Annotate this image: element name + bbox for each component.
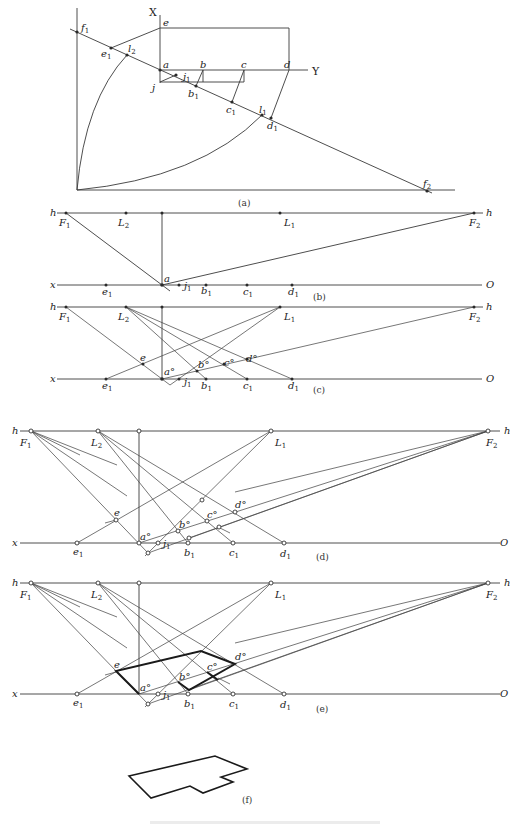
svg-text:x: x bbox=[12, 537, 18, 548]
panel-a: X Y f1 e e1 l2 a b c d j j1 b1 c1 l1 d1 … bbox=[70, 6, 455, 208]
svg-text:h: h bbox=[504, 577, 510, 588]
svg-text:F2: F2 bbox=[485, 589, 497, 602]
svg-text:e1: e1 bbox=[102, 380, 112, 393]
svg-text:h: h bbox=[12, 577, 18, 588]
svg-text:O: O bbox=[486, 279, 494, 290]
svg-text:F1: F1 bbox=[58, 217, 70, 230]
caption-c: (c) bbox=[313, 385, 325, 395]
svg-text:h: h bbox=[50, 207, 56, 218]
label-b: b bbox=[200, 59, 206, 70]
svg-text:e: e bbox=[114, 659, 120, 670]
svg-text:O: O bbox=[500, 537, 508, 548]
label-a: a bbox=[163, 59, 169, 70]
svg-text:a°: a° bbox=[140, 682, 151, 693]
svg-text:F1: F1 bbox=[58, 311, 70, 324]
panel-f: (f) bbox=[129, 756, 252, 805]
svg-text:O: O bbox=[486, 373, 494, 384]
svg-text:h: h bbox=[12, 425, 18, 436]
svg-text:b1: b1 bbox=[188, 88, 199, 101]
svg-text:F2: F2 bbox=[468, 311, 480, 324]
svg-text:j1: j1 bbox=[161, 689, 171, 702]
c-to-c1 bbox=[232, 70, 244, 102]
caption-f: (f) bbox=[242, 795, 252, 805]
svg-text:F1: F1 bbox=[19, 437, 31, 450]
svg-text:j1: j1 bbox=[161, 538, 171, 551]
svg-text:c1: c1 bbox=[243, 286, 253, 299]
svg-text:L2: L2 bbox=[90, 437, 102, 450]
b-to-b1 bbox=[196, 70, 203, 86]
svg-text:L1: L1 bbox=[283, 311, 295, 324]
svg-text:b°: b° bbox=[198, 359, 209, 370]
svg-text:b1: b1 bbox=[201, 380, 212, 393]
svg-text:a°: a° bbox=[140, 531, 151, 542]
axis-y-label: Y bbox=[311, 65, 320, 78]
svg-text:c1: c1 bbox=[243, 380, 253, 393]
svg-text:b1: b1 bbox=[184, 547, 195, 560]
arc-l1 bbox=[77, 115, 262, 190]
caption-d: (d) bbox=[316, 552, 329, 562]
final-perspective-shape bbox=[129, 756, 247, 798]
svg-text:a°: a° bbox=[164, 366, 175, 377]
svg-text:b°: b° bbox=[179, 671, 190, 682]
svg-text:l2: l2 bbox=[128, 43, 136, 56]
caption-b: (b) bbox=[313, 292, 326, 302]
svg-text:b1: b1 bbox=[201, 285, 212, 298]
svg-text:x: x bbox=[12, 688, 18, 699]
arc-l2 bbox=[77, 55, 127, 190]
svg-text:e1: e1 bbox=[101, 48, 111, 61]
panel-e: h h F1 L2 L1 F2 x O e a° b° c° d° e1 j1 … bbox=[12, 577, 510, 714]
svg-text:L1: L1 bbox=[274, 589, 286, 602]
svg-text:F2: F2 bbox=[485, 437, 497, 450]
svg-text:h: h bbox=[486, 207, 492, 218]
label-d: d bbox=[284, 59, 290, 70]
svg-text:e1: e1 bbox=[73, 546, 83, 559]
svg-text:a: a bbox=[164, 273, 170, 284]
svg-text:L1: L1 bbox=[283, 217, 295, 230]
svg-text:L2: L2 bbox=[117, 311, 129, 324]
svg-text:d1: d1 bbox=[288, 286, 299, 299]
svg-text:O: O bbox=[500, 688, 508, 699]
svg-text:L2: L2 bbox=[90, 589, 102, 602]
panel-b: h h F1 L2 L1 F2 x O a e1 j1 b1 c1 d1 (b) bbox=[50, 207, 494, 302]
svg-text:e1: e1 bbox=[73, 697, 83, 710]
caption-e: (e) bbox=[316, 704, 328, 714]
svg-text:e1: e1 bbox=[102, 286, 112, 299]
figure-caption-faint bbox=[150, 821, 380, 824]
svg-text:d1: d1 bbox=[280, 548, 291, 561]
d-to-d1 bbox=[271, 70, 289, 118]
panel-c: h h F1 L2 L1 F2 x O e a° b° c° d° e1 j1 … bbox=[50, 301, 494, 395]
svg-text:x: x bbox=[50, 373, 56, 384]
svg-text:c1: c1 bbox=[226, 104, 236, 117]
svg-text:j1: j1 bbox=[182, 280, 192, 293]
svg-text:d1: d1 bbox=[288, 380, 299, 393]
svg-text:c1: c1 bbox=[229, 547, 239, 560]
perspective-construction-diagram: X Y f1 e e1 l2 a b c d j j1 b1 c1 l1 d1 … bbox=[0, 0, 525, 827]
svg-text:d°: d° bbox=[235, 651, 246, 662]
svg-text:L2: L2 bbox=[117, 217, 129, 230]
svg-text:d1: d1 bbox=[280, 699, 291, 712]
label-c: c bbox=[241, 59, 247, 70]
caption-a: (a) bbox=[238, 198, 250, 208]
svg-text:F1: F1 bbox=[19, 589, 31, 602]
e-to-e1 bbox=[111, 28, 160, 48]
svg-text:j1: j1 bbox=[182, 376, 192, 389]
svg-text:F2: F2 bbox=[468, 217, 480, 230]
label-j: j bbox=[150, 82, 155, 93]
panel-d: h h F1 L2 L1 F2 x O e a° b° c° d° e1 j1 … bbox=[12, 425, 510, 562]
perspective-outline bbox=[116, 651, 235, 694]
svg-text:d°: d° bbox=[235, 499, 246, 510]
svg-text:f1: f1 bbox=[80, 22, 89, 35]
picture-plane-line bbox=[70, 29, 432, 193]
svg-text:b1: b1 bbox=[184, 698, 195, 711]
svg-text:c°: c° bbox=[207, 661, 218, 672]
svg-text:e: e bbox=[114, 507, 120, 518]
plan-outline-top bbox=[160, 28, 289, 70]
svg-text:b°: b° bbox=[179, 519, 190, 530]
svg-text:c°: c° bbox=[224, 357, 235, 368]
svg-text:h: h bbox=[504, 425, 510, 436]
svg-text:e: e bbox=[140, 352, 146, 363]
svg-text:c°: c° bbox=[207, 509, 218, 520]
svg-text:d°: d° bbox=[246, 353, 257, 364]
label-e: e bbox=[163, 17, 169, 28]
svg-text:h: h bbox=[486, 301, 492, 312]
